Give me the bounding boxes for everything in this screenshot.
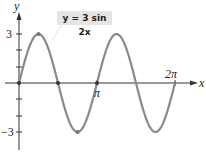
y-tick-label-3: 3 <box>6 27 12 41</box>
x-axis-arrow-icon <box>190 81 198 86</box>
x-tick-label-2pi: 2π <box>165 67 178 81</box>
callout-pointer <box>52 25 62 40</box>
y-axis-arrow-icon <box>17 12 22 20</box>
y-tick-label-neg3: −3 <box>1 125 14 139</box>
x-tick-label-pi: π <box>94 86 101 100</box>
equation-callout: y = 3 sin 2x <box>57 11 112 25</box>
x-axis-label: x <box>198 76 205 90</box>
y-axis-label: y <box>13 0 20 13</box>
